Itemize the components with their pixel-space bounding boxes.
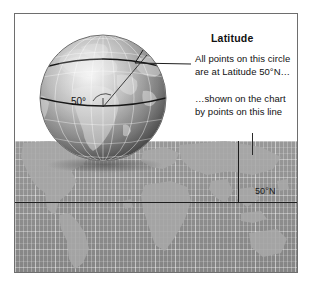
callout-globe-circle: All points on this circle are at Latitud… (195, 53, 290, 78)
globe-illustration: 50° (25, 19, 181, 175)
globe-angle-label: 50° (71, 96, 86, 107)
callout-chart-line-line1: …shown on the chart (195, 93, 286, 106)
latitude-figure: 50°N (0, 0, 312, 292)
chart-latitude-label: 50°N (255, 186, 276, 196)
callout-chart-line-line2: by points on this line (195, 106, 286, 119)
chart-meridian-leader-line (238, 141, 239, 203)
callout-leader-line (252, 133, 253, 155)
callout-globe-circle-line1: All points on this circle (195, 53, 290, 66)
callout-chart-line: …shown on the chart by points on this li… (195, 93, 286, 118)
chart-latitude-50n-line (15, 202, 297, 203)
figure-frame: 50°N (14, 13, 298, 273)
figure-title: Latitude (211, 32, 253, 44)
callout-globe-circle-line2: are at Latitude 50°N… (195, 66, 290, 79)
